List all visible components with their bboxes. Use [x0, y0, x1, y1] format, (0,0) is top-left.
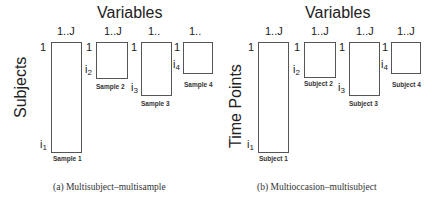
row-end-label: i1: [40, 138, 47, 150]
panel-a-caption: (a) Multisubject–multisample: [53, 182, 166, 192]
col-label: 1..J: [356, 25, 374, 37]
data-block-sample-2: [96, 42, 128, 79]
panel-a-title: Variables: [97, 4, 163, 22]
row-end-label: i2: [85, 63, 92, 75]
block-label: Subject 3: [349, 100, 378, 107]
panel-b-ylabel: Time Points: [227, 64, 245, 148]
data-block-subject-4: [391, 42, 421, 74]
col-label: 1..J: [311, 25, 329, 37]
panel-b-caption: (b) Multioccasion–multisubject: [257, 182, 377, 192]
row-start-label: 1: [339, 41, 345, 53]
row-end-label: i4: [173, 58, 180, 70]
data-block-sample-4: [183, 42, 213, 74]
row-start-label: 1: [40, 41, 46, 53]
row-start-label: 1: [131, 41, 137, 53]
row-start-label: 1: [174, 41, 180, 53]
row-start-label: 1: [382, 41, 388, 53]
data-block-subject-1: [258, 42, 289, 153]
col-label: 1..J: [104, 25, 122, 37]
row-end-label: i4: [381, 58, 388, 70]
block-label: Subject 1: [259, 155, 288, 162]
col-label: 1..: [148, 25, 160, 37]
col-label: 1..J: [265, 25, 283, 37]
block-label: Sample 2: [96, 83, 125, 90]
block-label: Sample 4: [184, 81, 213, 88]
panel-b-title: Variables: [305, 4, 371, 22]
row-end-label: i3: [131, 81, 138, 93]
row-start-label: 1: [294, 41, 300, 53]
row-start-label: 1: [86, 41, 92, 53]
row-end-label: i2: [293, 63, 300, 75]
data-block-subject-2: [304, 42, 336, 78]
col-label: 1..J: [397, 25, 415, 37]
data-block-sample-3: [141, 42, 172, 96]
block-label: Subject 2: [304, 80, 333, 87]
row-start-label: 1: [248, 41, 254, 53]
row-end-label: i1: [247, 138, 254, 150]
col-label: 1..J: [57, 25, 75, 37]
data-block-sample-1: [51, 42, 82, 153]
col-label: 1..: [189, 25, 201, 37]
panel-a-ylabel: Subjects: [12, 57, 30, 118]
row-end-label: i3: [338, 81, 345, 93]
block-label: Subject 4: [392, 81, 421, 88]
data-block-subject-3: [349, 42, 380, 96]
block-label: Sample 3: [141, 100, 170, 107]
block-label: Sample 1: [53, 155, 82, 162]
